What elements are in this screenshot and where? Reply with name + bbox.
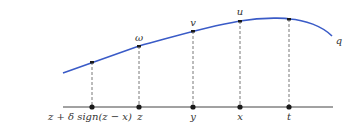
axis-point-5 — [286, 104, 291, 109]
diagram: ω v u q z + δ sign(z − x) z y x t — [0, 0, 357, 127]
curve-q — [63, 18, 332, 73]
label-u: u — [237, 6, 243, 17]
label-x: x — [237, 111, 243, 122]
label-omega: ω — [135, 32, 143, 43]
axis-point-4 — [237, 104, 242, 109]
label-t: t — [287, 111, 292, 122]
curve-marker-1 — [90, 61, 94, 64]
curve-marker-2 — [137, 45, 141, 48]
curve-marker-4 — [238, 20, 242, 23]
axis-point-1 — [89, 104, 94, 109]
axis-point-3 — [190, 104, 195, 109]
axis-point-2 — [136, 104, 141, 109]
label-z-plus-delta: z + δ sign(z − x) — [47, 111, 132, 122]
label-y: y — [189, 111, 196, 122]
curve-marker-5 — [287, 18, 291, 21]
label-q: q — [336, 35, 342, 46]
label-v: v — [190, 17, 196, 28]
label-z: z — [136, 111, 143, 122]
curve-marker-3 — [191, 30, 195, 33]
